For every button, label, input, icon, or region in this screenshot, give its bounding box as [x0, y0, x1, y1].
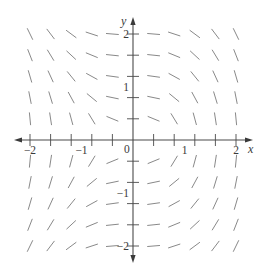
slope-segment — [28, 198, 31, 210]
slope-segment — [190, 242, 200, 249]
x-tick-label: −2 — [24, 144, 36, 156]
slope-segment — [49, 92, 52, 103]
slope-segment — [48, 71, 53, 82]
x-axis-left-arrow-icon — [14, 137, 22, 142]
slope-segment — [148, 96, 160, 98]
slope-segment — [67, 72, 75, 81]
slope-segment — [234, 50, 238, 61]
slope-segment — [148, 224, 160, 225]
slope-segment — [28, 50, 32, 61]
slope-segment — [28, 219, 32, 230]
y-tick-label: 1 — [123, 81, 129, 93]
slope-segment — [148, 246, 160, 247]
slope-segment — [192, 177, 198, 188]
x-axis-label: x — [247, 142, 254, 156]
slope-segment — [212, 50, 218, 60]
slope-segment — [87, 201, 98, 207]
y-tick-label: −2 — [117, 240, 129, 252]
slope-segment — [213, 198, 218, 209]
slope-segment — [48, 198, 53, 209]
slope-segment — [89, 114, 95, 124]
slope-segment — [214, 113, 216, 125]
slope-segment — [170, 179, 179, 187]
slope-segment — [86, 244, 97, 248]
slope-segment — [29, 113, 30, 125]
slope-segment — [148, 34, 160, 35]
y-tick-label: −1 — [117, 187, 129, 199]
slope-segment — [212, 220, 218, 230]
slope-segment — [68, 92, 74, 103]
y-axis-down-arrow-icon — [130, 255, 135, 263]
slope-segment — [233, 29, 238, 40]
slope-segment — [212, 29, 219, 39]
slope-segment — [86, 223, 97, 228]
x-tick-labels: −2−112 — [24, 144, 239, 156]
slope-segment — [212, 241, 219, 251]
slope-segment — [107, 117, 118, 122]
slope-segment — [107, 181, 119, 183]
slope-segment — [70, 113, 73, 125]
slope-segment — [106, 76, 118, 78]
slope-segment — [235, 155, 236, 167]
y-tick-label: 2 — [123, 28, 129, 40]
slope-segment — [106, 203, 118, 205]
slope-segment — [29, 177, 31, 189]
slope-segment — [192, 92, 198, 103]
slope-segment — [86, 53, 97, 58]
slope-segment — [50, 113, 52, 125]
slope-segment — [214, 155, 216, 167]
x-tick-label: 2 — [233, 144, 239, 156]
slope-segment — [235, 92, 237, 104]
slope-segment — [47, 29, 54, 39]
x-tick-label: 1 — [182, 144, 188, 156]
slope-segment — [193, 113, 196, 125]
slope-segment — [87, 94, 96, 102]
slope-segment — [190, 30, 200, 37]
slope-segment — [191, 199, 199, 208]
slope-segment — [148, 117, 159, 122]
slope-segment — [169, 201, 180, 207]
slope-segment — [148, 181, 160, 183]
slope-segment — [235, 177, 237, 189]
slope-segment — [169, 74, 180, 80]
origin-label: 0 — [124, 143, 130, 155]
slope-segment — [47, 241, 54, 251]
slope-segment — [89, 156, 95, 166]
slope-segment — [148, 203, 160, 205]
slope-segment — [213, 71, 218, 82]
slope-segment — [234, 71, 237, 83]
slope-segment — [70, 155, 73, 167]
slope-segment — [106, 34, 118, 35]
slope-segment — [191, 72, 199, 81]
slope-segment — [86, 32, 97, 36]
slope-segment — [170, 94, 179, 102]
slope-segment — [106, 55, 118, 56]
slope-segment — [148, 55, 160, 56]
slope-segment — [106, 224, 118, 225]
slope-segment — [47, 50, 53, 60]
slope-segment — [169, 223, 180, 228]
slope-segment — [169, 244, 180, 248]
slope-segment — [47, 220, 53, 230]
y-axis-up-arrow-icon — [130, 17, 135, 25]
slope-segment — [67, 221, 76, 229]
slope-segment — [169, 53, 180, 58]
slope-segment — [171, 156, 177, 166]
slope-segment — [28, 71, 31, 83]
slope-segment — [107, 159, 118, 164]
slope-segment — [234, 219, 238, 230]
slope-field-figure: x y 0 −2−112 21−1−2 — [0, 0, 268, 279]
slope-segment — [107, 96, 119, 98]
slope-segment — [234, 198, 237, 210]
slope-segment — [66, 30, 76, 37]
x-tick-label: −1 — [75, 144, 87, 156]
slope-segment — [171, 114, 177, 124]
slope-segment — [87, 179, 96, 187]
slope-segment — [27, 29, 32, 40]
slope-segment — [87, 74, 98, 80]
slope-segment — [193, 155, 196, 167]
slope-segment — [66, 242, 76, 249]
y-axis-label: y — [120, 14, 127, 28]
slope-segment — [148, 159, 159, 164]
slope-segment — [67, 199, 75, 208]
